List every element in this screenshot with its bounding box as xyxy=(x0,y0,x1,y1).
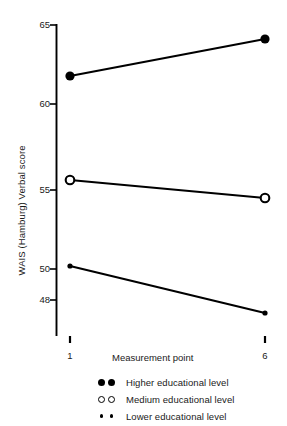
series-higher-point-6 xyxy=(260,34,269,43)
legend-label-higher: Higher educational level xyxy=(126,377,229,388)
x-tick-label-6: 6 xyxy=(255,350,275,361)
legend-label-lower: Lower educational level xyxy=(126,411,226,422)
legend-marker-open-circle-icon xyxy=(98,396,126,403)
series-medium-educational-level xyxy=(66,176,270,203)
x-axis-title: Measurement point xyxy=(112,352,232,363)
plot-area xyxy=(0,0,287,345)
legend-item-medium: Medium educational level xyxy=(98,391,287,407)
series-lower-educational-level xyxy=(67,263,267,315)
legend-item-higher: Higher educational level xyxy=(98,374,287,390)
chart-figure: WAIS (Hamburg) Verbal score 65 60 55 50 … xyxy=(0,0,287,426)
series-medium-line xyxy=(70,180,265,198)
series-lower-point-1 xyxy=(67,263,72,268)
series-higher-point-1 xyxy=(65,71,74,80)
legend-label-medium: Medium educational level xyxy=(126,394,234,405)
legend-marker-filled-small-circle-icon xyxy=(98,414,126,418)
series-higher-line xyxy=(70,39,265,76)
x-tick-label-1: 1 xyxy=(60,350,80,361)
series-medium-point-1 xyxy=(66,176,75,185)
legend-item-lower: Lower educational level xyxy=(98,408,287,424)
series-medium-point-6 xyxy=(261,194,270,203)
series-lower-line xyxy=(70,266,265,313)
chart-legend: Higher educational level Medium educatio… xyxy=(98,374,287,425)
series-higher-educational-level xyxy=(65,34,269,80)
series-lower-point-6 xyxy=(262,310,267,315)
legend-marker-filled-large-circle-icon xyxy=(98,379,126,386)
